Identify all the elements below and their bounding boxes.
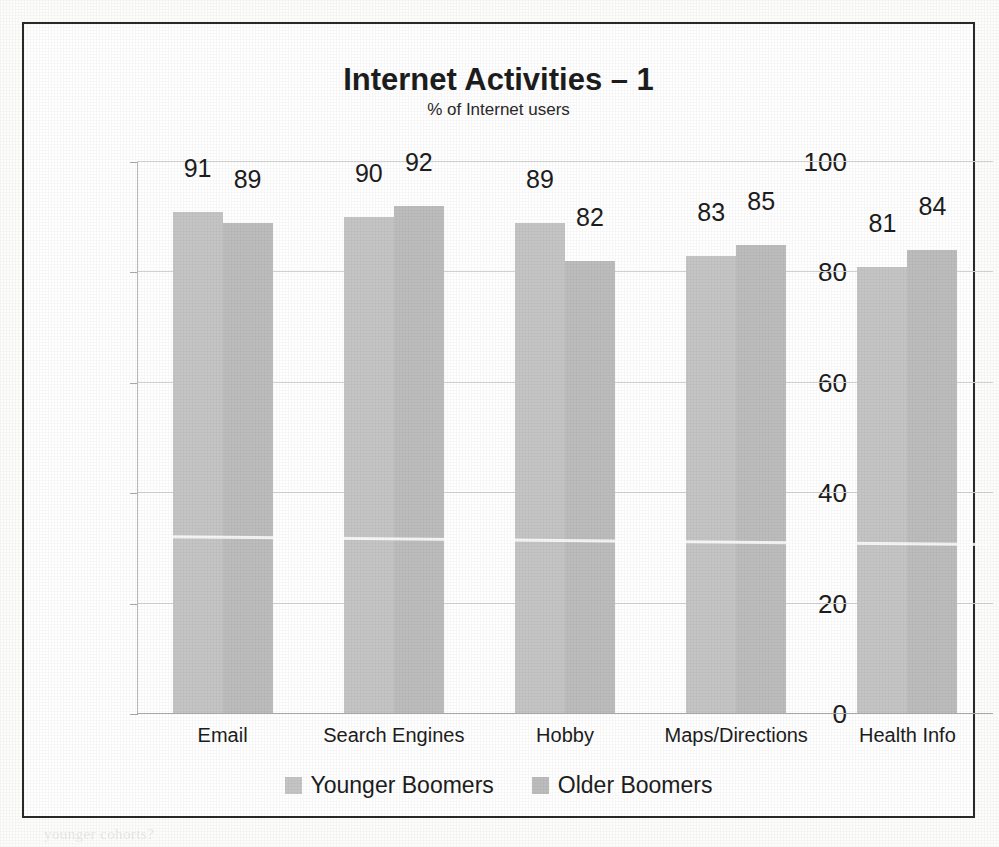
x-category-label-hobby: Hobby xyxy=(536,724,594,747)
x-category-label-search-engines: Search Engines xyxy=(323,724,464,747)
bar-value-label: 82 xyxy=(576,203,604,232)
bar-1-search-engines[interactable] xyxy=(394,206,444,714)
bar-group-email: 9189 xyxy=(173,162,273,714)
bar-group-maps-directions: 8385 xyxy=(686,162,786,714)
bar-0-search-engines[interactable] xyxy=(344,217,394,714)
y-tick-mark-0 xyxy=(130,714,138,715)
legend-label: Older Boomers xyxy=(558,772,713,799)
bar-0-hobby[interactable] xyxy=(515,223,565,714)
bar-0-health-info[interactable] xyxy=(857,267,907,714)
chart-frame: Internet Activities – 1 % of Internet us… xyxy=(22,22,975,818)
x-axis-line xyxy=(137,713,993,714)
x-category-label-maps-directions: Maps/Directions xyxy=(664,724,807,747)
bar-value-label: 90 xyxy=(355,159,383,188)
bar-0-maps-directions[interactable] xyxy=(686,256,736,714)
legend-item-1[interactable]: Older Boomers xyxy=(532,772,713,799)
bar-group-health-info: 8184 xyxy=(857,162,957,714)
x-category-label-health-info: Health Info xyxy=(859,724,956,747)
legend-item-0[interactable]: Younger Boomers xyxy=(285,772,494,799)
legend-swatch-icon xyxy=(285,777,302,794)
bar-group-search-engines: 9092 xyxy=(344,162,444,714)
bar-1-health-info[interactable] xyxy=(907,250,957,714)
bar-1-email[interactable] xyxy=(223,223,273,714)
legend-swatch-icon xyxy=(532,777,549,794)
bar-group-hobby: 8982 xyxy=(515,162,615,714)
bar-value-label: 89 xyxy=(526,165,554,194)
bar-1-maps-directions[interactable] xyxy=(736,245,786,714)
bar-value-label: 84 xyxy=(918,192,946,221)
bleed-line: younger cohorts? xyxy=(44,826,944,843)
bar-value-label: 81 xyxy=(868,209,896,238)
bar-value-label: 85 xyxy=(747,187,775,216)
legend-label: Younger Boomers xyxy=(311,772,494,799)
x-category-label-email: Email xyxy=(198,724,248,747)
chart-legend: Younger BoomersOlder Boomers xyxy=(24,772,973,799)
bar-0-email[interactable] xyxy=(173,212,223,714)
bar-value-label: 89 xyxy=(234,165,262,194)
y-axis-line xyxy=(137,162,138,714)
chart-subtitle: % of Internet users xyxy=(24,100,973,120)
bar-1-hobby[interactable] xyxy=(565,261,615,714)
bar-value-label: 83 xyxy=(697,198,725,227)
bar-value-label: 91 xyxy=(184,154,212,183)
chart-title: Internet Activities – 1 xyxy=(24,62,973,98)
bar-value-label: 92 xyxy=(405,148,433,177)
plot-area: 91899092898283858184 xyxy=(137,162,993,714)
